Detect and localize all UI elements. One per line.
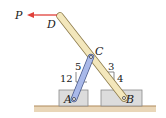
slope-left-run: 5 [75,61,81,72]
point-label-d: D [46,18,56,31]
force-label-p: P [14,9,23,22]
slope-right-run: 3 [108,61,114,72]
arrow-left-icon [27,12,34,18]
slope-right-rise: 4 [117,73,123,84]
slope-left-rise: 12 [60,73,73,84]
ground [34,106,156,112]
mechanism-diagram: 5 12 3 4 P D C A B [0,0,166,118]
point-label-b: B [125,93,134,106]
point-label-a: A [63,93,72,106]
pin-a [73,98,76,101]
pin-c [90,56,93,59]
point-label-c: C [95,45,104,58]
